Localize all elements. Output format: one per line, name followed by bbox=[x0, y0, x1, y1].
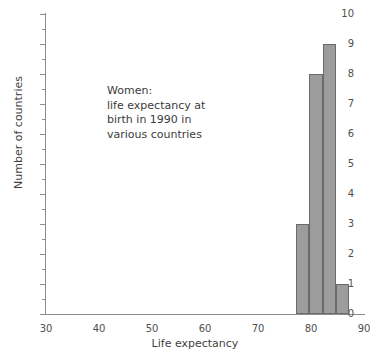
y-axis-minor-tick bbox=[42, 179, 46, 180]
x-axis-tick-label: 50 bbox=[146, 324, 159, 334]
x-axis-tick-label: 60 bbox=[199, 324, 212, 334]
y-axis-tick bbox=[40, 44, 46, 45]
x-axis-tick-label: 40 bbox=[93, 324, 106, 334]
y-axis-minor-tick bbox=[42, 239, 46, 240]
annotation-line-3: birth in 1990 in bbox=[107, 113, 205, 128]
y-axis-tick-label: 5 bbox=[348, 159, 354, 169]
histogram-chart: 012345678910 Life expectancy Number of c… bbox=[0, 0, 390, 359]
x-axis-tick-label: 90 bbox=[358, 324, 371, 334]
y-axis-title: Number of countries bbox=[12, 53, 25, 213]
y-axis-tick bbox=[40, 104, 46, 105]
x-axis-tick-label: 70 bbox=[252, 324, 265, 334]
y-axis-minor-tick bbox=[42, 149, 46, 150]
y-axis-minor-tick bbox=[42, 89, 46, 90]
y-axis-tick-label: 3 bbox=[348, 219, 354, 229]
x-axis-tick-label: 80 bbox=[305, 324, 318, 334]
y-axis-minor-tick bbox=[42, 299, 46, 300]
y-axis-tick bbox=[40, 74, 46, 75]
annotation-line-2: life expectancy at bbox=[107, 99, 205, 114]
histogram-bar bbox=[336, 284, 349, 314]
y-axis-tick-label: 8 bbox=[348, 69, 354, 79]
y-axis-tick bbox=[40, 14, 46, 15]
y-axis-tick bbox=[40, 134, 46, 135]
annotation-line-4: various countries bbox=[107, 128, 205, 143]
plot-area: 012345678910 bbox=[46, 14, 364, 314]
histogram-bar bbox=[309, 74, 322, 314]
y-axis-tick-label: 6 bbox=[348, 129, 354, 139]
y-axis-tick bbox=[40, 314, 46, 315]
histogram-bar bbox=[296, 224, 309, 314]
x-axis-tick-label: 30 bbox=[40, 324, 53, 334]
y-axis-tick-label: 7 bbox=[348, 99, 354, 109]
x-axis-line bbox=[45, 314, 365, 315]
y-axis-tick bbox=[40, 284, 46, 285]
y-axis-tick-label: 4 bbox=[348, 189, 354, 199]
histogram-bar bbox=[323, 44, 336, 314]
y-axis-tick-label: 9 bbox=[348, 39, 354, 49]
y-axis-tick bbox=[40, 164, 46, 165]
annotation-line-1: Women: bbox=[107, 84, 205, 99]
y-axis-tick bbox=[40, 224, 46, 225]
chart-annotation: Women: life expectancy at birth in 1990 … bbox=[107, 84, 205, 142]
y-axis-tick-label: 2 bbox=[348, 249, 354, 259]
y-axis-minor-tick bbox=[42, 29, 46, 30]
x-axis-title: Life expectancy bbox=[0, 337, 390, 350]
y-axis-minor-tick bbox=[42, 269, 46, 270]
y-axis-tick bbox=[40, 194, 46, 195]
y-axis-minor-tick bbox=[42, 119, 46, 120]
y-axis-tick bbox=[40, 254, 46, 255]
y-axis-minor-tick bbox=[42, 59, 46, 60]
y-axis-minor-tick bbox=[42, 209, 46, 210]
y-axis-tick-label: 10 bbox=[341, 9, 354, 19]
